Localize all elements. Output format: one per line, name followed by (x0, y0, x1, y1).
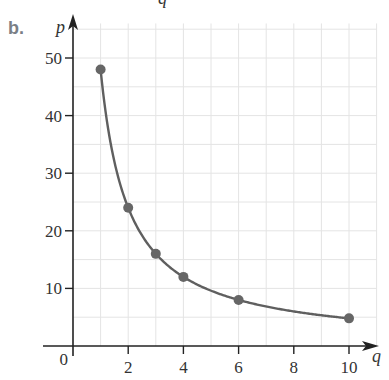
x-tick-label: 8 (290, 358, 299, 377)
curve-line (101, 70, 349, 319)
data-point (123, 203, 133, 213)
x-tick-label: 4 (179, 358, 188, 377)
x-tick-label: 6 (234, 358, 243, 377)
data-points (96, 65, 354, 324)
x-tick-label: 10 (341, 358, 358, 377)
x-tick-label: 2 (124, 358, 133, 377)
data-point (96, 65, 106, 75)
grid-lines (73, 23, 377, 346)
y-tick-label: 30 (45, 164, 62, 183)
data-point (234, 295, 244, 305)
data-point (151, 249, 161, 259)
origin-label: 0 (60, 350, 69, 369)
y-tick-label: 40 (45, 107, 62, 126)
data-point (178, 272, 188, 282)
y-axis-label: p (54, 17, 65, 37)
y-tick-label: 50 (45, 49, 62, 68)
y-tick-label: 10 (45, 279, 62, 298)
y-tick-label: 20 (45, 222, 62, 241)
x-axis-label: q (372, 346, 381, 366)
chart-inverse-variation: 10203040500246810qp (0, 0, 389, 380)
curve (101, 70, 349, 319)
data-point (344, 313, 354, 323)
tick-labels: 10203040500246810qp (45, 17, 381, 377)
